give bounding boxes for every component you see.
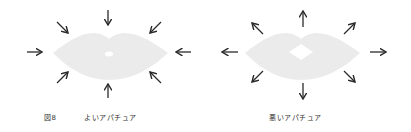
bad-aperture-figure: 悪いアパチュア [205,0,410,132]
good-aperture-figure: 図8 よいアパチュア [0,0,205,132]
arrow-up-right-icon [344,23,355,34]
figure-number: 図8 [44,112,56,122]
arrow-down-left-icon [252,71,263,82]
arrow-up-left-icon [252,23,263,34]
arrow-down-left-icon [150,22,161,33]
arrow-up-right-icon [57,72,68,83]
good-aperture-caption: よいアパチュア [84,112,137,122]
arrow-down-right-icon [344,71,355,82]
arrow-up-left-icon [150,72,161,83]
lips-shape [245,33,360,80]
small-mouth-opening [105,52,113,57]
arrow-down-right-icon [57,22,68,33]
bad-aperture-caption: 悪いアパチュア [269,112,322,122]
